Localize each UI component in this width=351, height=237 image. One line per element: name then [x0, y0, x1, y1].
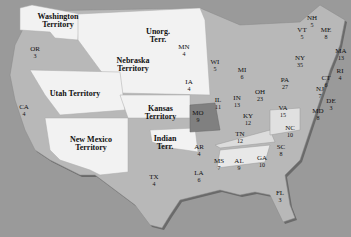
state-tn: TN12	[232, 131, 248, 144]
state-ca: CA4	[16, 104, 32, 117]
state-fl: FL3	[272, 190, 288, 203]
state-il: IL11	[210, 97, 226, 110]
state-la: LA6	[191, 170, 207, 183]
territory-indian: Indian Terr.	[150, 135, 180, 152]
state-ma: MA13	[333, 48, 349, 61]
territory-washington: Washington Territory	[33, 13, 83, 30]
state-pa: PA27	[277, 77, 293, 90]
state-oh: OH23	[252, 89, 268, 102]
territory-kansas: Kansas Territory	[138, 105, 183, 122]
territory-new-mexico: New Mexico Territory	[66, 136, 116, 153]
territory-unorganized: Unorg. Terr.	[143, 28, 173, 45]
territory-utah: Utah Territory	[40, 90, 110, 98]
state-mi: MI6	[234, 67, 250, 80]
state-or: OR3	[27, 46, 43, 59]
state-ny: NY35	[292, 55, 308, 68]
state-in: IN13	[229, 95, 245, 108]
state-al: AL9	[231, 158, 247, 171]
state-ky: KY12	[240, 113, 256, 126]
state-nc: NC10	[282, 125, 298, 138]
state-wi: WI5	[207, 59, 223, 72]
state-ms: MS7	[211, 158, 227, 171]
state-mo: MO9	[190, 110, 206, 123]
us-electoral-map: Washington Territory Nebraska Territory …	[0, 0, 351, 237]
state-me: ME8	[318, 27, 334, 40]
territory-nebraska: Nebraska Territory	[108, 57, 158, 74]
state-mn: MN4	[176, 44, 192, 57]
state-ar: AR4	[191, 144, 207, 157]
state-ia: IA4	[181, 79, 197, 92]
state-ga: GA10	[254, 155, 270, 168]
state-ri: RI4	[333, 68, 347, 81]
state-va: VA15	[275, 105, 291, 118]
state-vt: VT5	[294, 27, 310, 40]
state-md: MD8	[310, 108, 326, 121]
state-sc: SC8	[273, 144, 289, 157]
state-tx: TX4	[146, 174, 162, 187]
